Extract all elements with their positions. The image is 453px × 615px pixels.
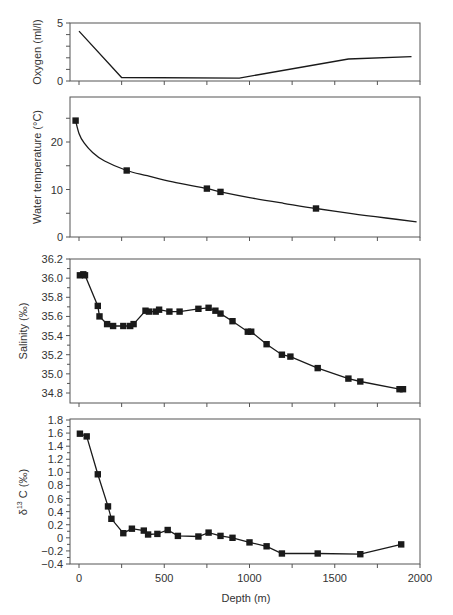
salinity-y-tick-label: 35.0: [42, 368, 63, 380]
salinity-y-label: Salinity (‰): [17, 303, 29, 360]
oxygen-series-line: [79, 31, 412, 78]
x-tick-label: 500: [155, 572, 173, 584]
d13c-y-label-superscript: 13: [16, 501, 23, 509]
temperature-y-label: Water temperature (°C): [31, 110, 43, 224]
oxygen-y-tick-label: 5: [57, 17, 63, 29]
salinity-y-tick-label: 35.6: [42, 310, 63, 322]
salinity-data-point: [82, 272, 88, 278]
temperature-y-tick-label: 0: [57, 231, 63, 243]
d13c-y-tick-label: 1.0: [48, 466, 63, 478]
d13c-data-point: [105, 503, 111, 509]
salinity-y-tick-label: 34.8: [42, 387, 63, 399]
salinity-data-point: [104, 321, 110, 327]
d13c-y-tick-label: 0: [57, 532, 63, 544]
d13c-data-point: [279, 550, 285, 556]
d13c-plot-frame: [70, 419, 420, 564]
temperature-data-point: [217, 189, 223, 195]
salinity-data-point: [315, 365, 321, 371]
d13c-y-tick-label: 0.6: [48, 493, 63, 505]
x-tick-label: 1000: [237, 572, 261, 584]
salinity-y-tick-label: 36.0: [42, 272, 63, 284]
salinity-y-tick-label: 35.2: [42, 349, 63, 361]
d13c-data-point: [120, 530, 126, 536]
d13c-panel: −0.4−0.200.20.40.60.81.01.21.41.61.80500…: [41, 414, 432, 584]
salinity-data-point: [263, 341, 269, 347]
d13c-data-point: [229, 535, 235, 541]
salinity-y-tick-label: 36.2: [42, 253, 63, 265]
depth-profile-figure: 05 01020 34.835.035.235.435.635.836.036.…: [0, 0, 453, 615]
x-tick-label: 1500: [323, 572, 347, 584]
salinity-y-tick-label: 35.8: [42, 291, 63, 303]
temperature-panel: 01020: [51, 97, 420, 243]
x-tick-label: 2000: [408, 572, 432, 584]
d13c-data-point: [108, 516, 114, 522]
salinity-data-point: [345, 375, 351, 381]
d13c-y-tick-label: 0.2: [48, 519, 63, 531]
oxygen-y-label: Oxygen (ml/l): [31, 19, 43, 84]
x-tick-label: 0: [76, 572, 82, 584]
d13c-data-point: [95, 471, 101, 477]
d13c-series-line: [80, 434, 401, 555]
d13c-y-tick-label: −0.2: [41, 545, 63, 557]
d13c-data-point: [217, 533, 223, 539]
salinity-data-point: [229, 318, 235, 324]
salinity-data-point: [279, 352, 285, 358]
salinity-data-point: [96, 313, 102, 319]
salinity-data-point: [130, 321, 136, 327]
d13c-y-tick-label: 0.4: [48, 506, 63, 518]
temperature-y-tick-label: 20: [51, 136, 63, 148]
salinity-panel: 34.835.035.235.435.635.836.036.2: [42, 253, 420, 407]
salinity-data-point: [357, 378, 363, 384]
salinity-data-point: [156, 307, 162, 313]
salinity-data-point: [110, 323, 116, 329]
temperature-data-point: [124, 167, 130, 173]
salinity-data-point: [287, 353, 293, 359]
temperature-data-point: [72, 117, 78, 123]
salinity-data-point: [400, 386, 406, 392]
salinity-data-point: [120, 323, 126, 329]
d13c-data-point: [84, 433, 90, 439]
oxygen-plot-frame: [70, 23, 420, 81]
d13c-y-label: δ13 C (‰): [16, 469, 29, 515]
d13c-y-tick-label: −0.4: [41, 558, 63, 570]
d13c-data-point: [263, 543, 269, 549]
d13c-y-tick-label: 1.2: [48, 453, 63, 465]
d13c-y-tick-label: 1.4: [48, 440, 63, 452]
salinity-data-point: [176, 308, 182, 314]
salinity-data-point: [205, 305, 211, 311]
d13c-y-label-rest: C (‰): [17, 469, 29, 501]
d13c-data-point: [246, 539, 252, 545]
oxygen-y-tick-label: 0: [57, 75, 63, 87]
salinity-data-point: [166, 308, 172, 314]
x-axis-label: Depth (m): [222, 592, 271, 604]
d13c-data-point: [205, 529, 211, 535]
d13c-data-point: [398, 541, 404, 547]
d13c-data-point: [165, 527, 171, 533]
salinity-y-tick-label: 35.4: [42, 330, 63, 342]
salinity-series-line: [80, 274, 403, 389]
temperature-y-tick-label: 10: [51, 184, 63, 196]
salinity-data-point: [248, 329, 254, 335]
d13c-data-point: [129, 526, 135, 532]
d13c-y-tick-label: 1.8: [48, 414, 63, 426]
salinity-data-point: [195, 306, 201, 312]
salinity-data-point: [146, 308, 152, 314]
d13c-data-point: [175, 533, 181, 539]
d13c-data-point: [77, 431, 83, 437]
salinity-data-point: [217, 310, 223, 316]
d13c-data-point: [145, 531, 151, 537]
d13c-y-tick-label: 1.6: [48, 427, 63, 439]
temperature-data-point: [204, 185, 210, 191]
d13c-data-point: [195, 533, 201, 539]
d13c-data-point: [315, 550, 321, 556]
d13c-y-tick-label: 0.8: [48, 479, 63, 491]
oxygen-panel: 05: [57, 17, 420, 87]
salinity-data-point: [95, 303, 101, 309]
temperature-data-point: [313, 205, 319, 211]
d13c-data-point: [154, 531, 160, 537]
d13c-data-point: [357, 551, 363, 557]
